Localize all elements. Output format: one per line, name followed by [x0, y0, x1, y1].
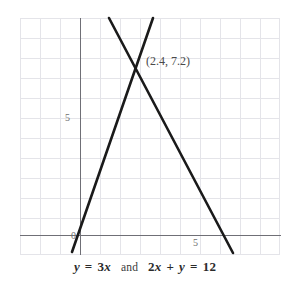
graph-figure: (2.4, 7.2) 0 5 5 y=3xand2x+y=12	[0, 0, 290, 286]
caption-conjunction: and	[121, 261, 138, 273]
caption-eq1-equals: =	[85, 259, 93, 274]
coordinate-plane	[0, 0, 290, 286]
caption-eq2-equals: =	[190, 259, 198, 274]
caption-eq1-lhs: y	[74, 259, 80, 274]
x-axis-tick-label-5: 5	[193, 237, 198, 248]
caption-eq2-coefficient: 2	[148, 259, 155, 274]
caption-eq2-variable-x: x	[155, 259, 162, 274]
caption-eq2-plus: +	[167, 259, 175, 274]
caption-eq2-variable-y: y	[179, 259, 185, 274]
y-axis-tick-label-5: 5	[65, 112, 70, 123]
intersection-point-label: (2.4, 7.2)	[146, 54, 190, 69]
caption-eq2-rhs: 12	[203, 259, 216, 274]
caption-eq1-variable: x	[104, 259, 111, 274]
origin-tick-label: 0	[71, 230, 76, 241]
figure-caption: y=3xand2x+y=12	[0, 259, 290, 275]
